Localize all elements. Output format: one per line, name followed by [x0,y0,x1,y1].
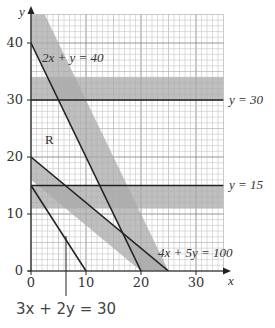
label-4x-5y-100: 4x + 5y = 100 [158,245,233,260]
x-tick-20: 20 [133,275,150,290]
y-axis-label: y [17,4,25,19]
label-2x-y-40: 2x + y = 40 [42,50,104,65]
x-tick-0: 0 [27,275,35,290]
y-tick-40: 40 [6,35,23,50]
x-tick-30: 30 [188,275,205,290]
x-tick-10: 10 [78,275,95,290]
x-tick-labels: 0 10 20 30 [27,275,204,290]
label-y-30: y = 30 [227,92,264,107]
region-label: R [45,132,54,147]
y-tick-20: 20 [6,149,23,164]
y-tick-10: 10 [6,206,23,221]
x-axis-label: x [227,273,234,288]
y-tick-30: 30 [6,92,23,107]
linear-programming-chart: 0 10 20 30 40 0 10 20 30 y x R 2x + y = … [0,0,275,328]
y-tick-0: 0 [15,263,23,278]
y-tick-labels: 0 10 20 30 40 [6,35,23,278]
label-y-15: y = 15 [227,177,264,192]
y-axis-arrow-icon [28,6,35,14]
label-3x-2y-30: 3x + 2y = 30 [16,300,116,318]
